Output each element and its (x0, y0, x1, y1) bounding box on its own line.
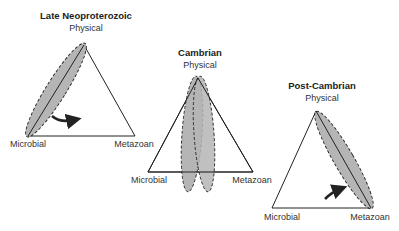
diagram-title: Post-Cambrian (288, 80, 356, 91)
vertex-label-physical: Physical (69, 23, 103, 33)
diagram-title: Late Neoproterozoic (40, 10, 132, 21)
vertex-label-microbial: Microbial (131, 175, 167, 185)
vertex-label-metazoan: Metazoan (350, 212, 390, 222)
diagram-title: Cambrian (178, 47, 222, 58)
vertex-label-physical: Physical (305, 93, 339, 103)
ternary-diagrams: Late Neoproterozoic Physical Microbial M… (0, 0, 399, 231)
edge-physical-microbial (28, 45, 84, 136)
vertex-label-microbial: Microbial (10, 139, 46, 149)
arrow-icon (52, 116, 74, 121)
arrow-icon (325, 189, 340, 199)
vertex-label-microbial: Microbial (264, 212, 300, 222)
diagram-post-cambrian: Post-Cambrian Physical Microbial Metazoa… (264, 80, 390, 222)
vertex-label-metazoan: Metazoan (232, 175, 272, 185)
edge-physical-metazoan (316, 111, 371, 208)
vertex-label-physical: Physical (183, 60, 217, 70)
diagram-late-neoproterozoic: Late Neoproterozoic Physical Microbial M… (10, 10, 154, 149)
vertex-label-metazoan: Metazoan (114, 139, 154, 149)
diagram-cambrian: Cambrian Physical Microbial Metazoan (131, 47, 272, 193)
